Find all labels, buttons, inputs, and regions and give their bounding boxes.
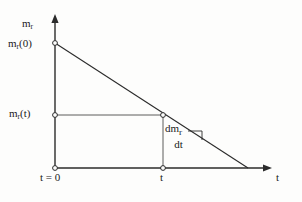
y-axis-label-subscript: r bbox=[31, 22, 34, 31]
x-tick-label-t-zero: t = 0 bbox=[40, 172, 60, 183]
y-tick-label-m-r-zero: mr(0) bbox=[8, 38, 32, 49]
y-axis-label-base: m bbox=[22, 17, 31, 29]
derivative-annotation: dmr dt bbox=[164, 122, 183, 150]
y-tick-m-r-zero-suffix: (0) bbox=[19, 37, 32, 49]
marker-t-on-axis bbox=[161, 166, 166, 171]
derivative-numerator-subscript: r bbox=[179, 127, 182, 137]
marker-curve-point bbox=[161, 113, 166, 118]
depletion-line bbox=[55, 43, 248, 168]
derivative-denominator: dt bbox=[174, 138, 183, 150]
marker-origin bbox=[53, 166, 58, 171]
y-tick-m-r-zero-base: m bbox=[8, 37, 17, 49]
y-tick-label-m-r-t: mr(t) bbox=[9, 108, 30, 119]
y-tick-m-r-zero-subscript: r bbox=[17, 42, 20, 51]
x-axis-arrowhead bbox=[263, 164, 272, 171]
marker-m-r-t bbox=[53, 113, 58, 118]
derivative-numerator: dmr bbox=[164, 122, 183, 137]
derivative-numerator-base: dm bbox=[165, 122, 179, 134]
marker-m-r-zero bbox=[53, 41, 58, 46]
slope-triangle-marker bbox=[188, 131, 202, 140]
x-axis-label: t bbox=[276, 172, 279, 183]
y-axis-arrowhead bbox=[51, 14, 58, 23]
y-tick-m-r-t-subscript: r bbox=[18, 112, 21, 121]
y-axis-label: mr bbox=[22, 18, 33, 29]
y-tick-m-r-t-suffix: (t) bbox=[20, 107, 30, 119]
y-tick-m-r-t-base: m bbox=[9, 107, 18, 119]
x-tick-label-t-value: t bbox=[160, 172, 163, 183]
mass-depletion-diagram: mr mr(0) mr(t) t = 0 t t dmr dt bbox=[0, 0, 302, 202]
